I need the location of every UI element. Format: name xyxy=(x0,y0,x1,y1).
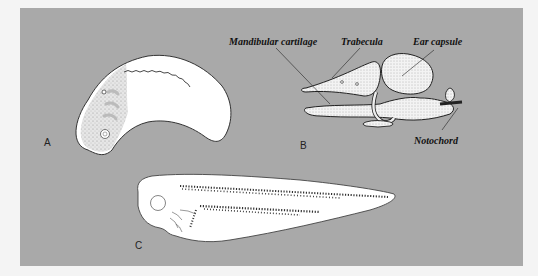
panel-label-c: C xyxy=(135,240,142,251)
chondrocranium-b-illustration xyxy=(276,48,462,130)
panel-label-b: B xyxy=(300,140,307,151)
label-ear-capsule: Ear capsule xyxy=(413,36,462,47)
tadpole-c-illustration xyxy=(138,174,395,241)
panel-label-a: A xyxy=(44,137,51,148)
label-trabecula: Trabecula xyxy=(341,36,383,47)
label-notochord: Notochord xyxy=(414,135,458,146)
embryo-a-illustration xyxy=(76,55,231,154)
label-mandibular-cartilage: Mandibular cartilage xyxy=(229,36,317,47)
